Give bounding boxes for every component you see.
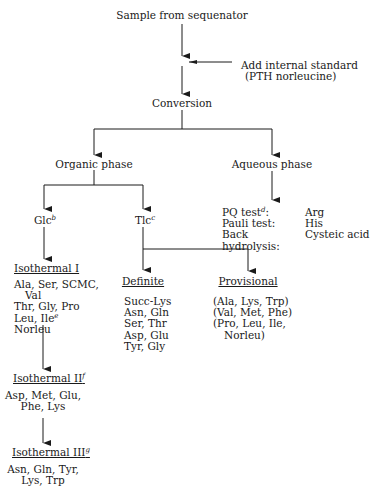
glc-label: Glc (34, 214, 52, 226)
tlc-footnote: c (151, 214, 155, 222)
list-item: Phe, Lys (5, 401, 81, 412)
isothermal-3-list: Asn, Gln, Tyr, Lys, Trp (7, 464, 79, 486)
node-definite: Definite (122, 276, 164, 287)
glc-footnote: b (52, 214, 56, 222)
list-item: (Pro, Leu, Ile, (213, 318, 292, 329)
node-standard-line2: (PTH norleucine) (245, 71, 336, 82)
list-item: Lys, Trp (7, 475, 79, 486)
test-name-back-hydrolysis: Back hydrolysis: (222, 229, 305, 251)
node-isothermal-3: Isothermal IIIg (12, 447, 90, 458)
provisional-list: (Ala, Lys, Trp) (Val, Met, Phe) (Pro, Le… (213, 296, 292, 341)
node-glc: Glcb (34, 215, 56, 226)
node-tlc: Tlcc (135, 215, 155, 226)
node-organic-phase: Organic phase (55, 159, 132, 170)
definite-list: Succ-Lys Asn, Gln Ser, Thr Asp, Glu Tyr,… (124, 296, 171, 352)
list-item: Norleu (14, 324, 99, 335)
tlc-label: Tlc (135, 214, 151, 226)
node-provisional: Provisional (218, 276, 277, 287)
node-conversion: Conversion (152, 98, 212, 109)
list-item: Ser, Thr (124, 318, 171, 329)
node-isothermal-2: Isothermal IIf (13, 373, 85, 384)
list-item: Norleu) (213, 330, 292, 341)
list-item: Tyr, Gly (124, 341, 171, 352)
node-isothermal-1: Isothermal I (14, 263, 79, 274)
isothermal-1-list: Ala, Ser, SCMC, Val Thr, Gly, Pro Leu, I… (14, 279, 99, 335)
node-start: Sample from sequenator (116, 10, 247, 21)
isothermal-2-list: Asp, Met, Glu, Phe, Lys (5, 390, 81, 412)
node-aqueous-phase: Aqueous phase (232, 159, 312, 170)
aqueous-tests-table: PQ testd: Arg Pauli test: His Back hydro… (222, 207, 370, 252)
test-result-back-hydrolysis: Cysteic acid (305, 229, 370, 251)
